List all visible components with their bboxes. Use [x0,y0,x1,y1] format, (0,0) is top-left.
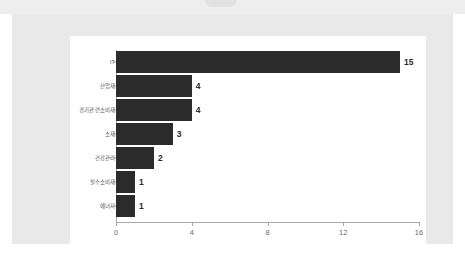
chart-panel: IT15산업재4경기관련소비재4소재3건강관리2필수소비재1에너지1048121… [70,36,426,244]
x-axis-tick [116,223,117,226]
bar-value-label: 1 [139,177,144,187]
bar-row: 에너지1 [70,194,426,218]
top-band-notch [205,0,237,7]
bar-value-label: 1 [139,201,144,211]
top-gray-band [0,0,465,14]
chart-outer-frame: IT15산업재4경기관련소비재4소재3건강관리2필수소비재1에너지1048121… [12,14,453,244]
category-axis-label: 건강관리 [95,154,115,162]
bar[interactable] [116,171,135,193]
bar[interactable] [116,123,173,145]
bar-value-label: 4 [196,81,201,91]
category-axis-label: 경기관련소비재 [79,106,115,114]
bar-row: IT15 [70,50,426,74]
category-axis-label: 필수소비재 [90,178,116,186]
bar-row: 소재3 [70,122,426,146]
bar[interactable] [116,195,135,217]
bar-row: 필수소비재1 [70,170,426,194]
x-axis-tick-label: 8 [265,228,269,237]
x-axis-tick-label: 12 [339,228,347,237]
x-axis-tick [419,223,420,226]
bar-value-label: 3 [177,129,182,139]
x-axis-tick-label: 16 [415,228,423,237]
bar-row: 건강관리2 [70,146,426,170]
x-axis-tick [343,223,344,226]
x-axis-tick-label: 0 [114,228,118,237]
x-axis-tick [192,223,193,226]
bar[interactable] [116,51,400,73]
bar[interactable] [116,99,192,121]
bar-row: 경기관련소비재4 [70,98,426,122]
bar-value-label: 15 [404,57,413,67]
bar[interactable] [116,75,192,97]
x-axis-tick-label: 4 [190,228,194,237]
bar-row: 산업재4 [70,74,426,98]
x-axis-tick [268,223,269,226]
bar-value-label: 2 [158,153,163,163]
bar-value-label: 4 [196,105,201,115]
bar-chart-plot-area: IT15산업재4경기관련소비재4소재3건강관리2필수소비재1에너지1048121… [70,36,426,244]
bar[interactable] [116,147,154,169]
